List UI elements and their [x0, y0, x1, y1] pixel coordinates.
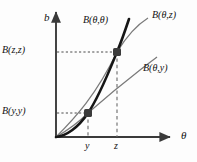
x-tick-label-y: y — [85, 141, 89, 151]
figure-container: b θ B(z,z) B(y,y) B(θ,θ) B(θ,z) B(θ,y) y… — [0, 0, 197, 162]
curve-label-b-theta-theta: B(θ,θ) — [83, 15, 108, 25]
x-tick-label-z: z — [114, 141, 118, 151]
y-value-label-upper: B(z,z) — [2, 45, 25, 55]
curve-label-b-theta-z: B(θ,z) — [152, 10, 176, 20]
marker-point-y — [84, 109, 92, 117]
x-axis-label: θ — [181, 130, 186, 141]
y-axis-label: b — [44, 12, 50, 23]
y-value-label-lower: B(y,y) — [2, 106, 26, 116]
curve-b-theta-theta — [56, 19, 129, 137]
marker-point-z — [113, 48, 121, 56]
guide-lines — [57, 52, 117, 137]
curve-b-theta-y — [56, 57, 157, 137]
curve-b-theta-z — [56, 18, 148, 137]
curve-label-b-theta-y: B(θ,y) — [143, 63, 168, 73]
curve-group — [56, 18, 157, 137]
